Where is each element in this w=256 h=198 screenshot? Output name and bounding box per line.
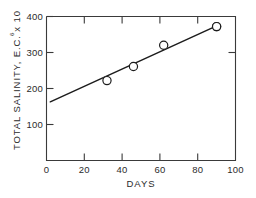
data-point-3 (160, 41, 168, 49)
x-tick-label-0: 0 (44, 164, 49, 175)
axis-frame (47, 17, 236, 161)
salinity-vs-days-scatter-plot: 400 300 200 100 0 20 40 60 80 100 DAYS T… (0, 0, 256, 198)
y-axis-tick-labels: 400 300 200 100 (27, 11, 43, 130)
y-tick-label-400: 400 (27, 11, 43, 22)
plot-border (47, 17, 236, 161)
y-axis-exponent: 6 (8, 32, 15, 36)
x-axis-tick-labels: 0 20 40 60 80 100 (44, 164, 244, 175)
y-tick-label-200: 200 (27, 83, 43, 94)
x-axis-title: DAYS (127, 178, 156, 189)
x-tick-label-80: 80 (192, 164, 203, 175)
y-tick-label-300: 300 (27, 47, 43, 58)
x-tick-label-100: 100 (227, 164, 243, 175)
data-point-2 (129, 62, 137, 70)
y-axis-ticks (47, 17, 236, 125)
y-axis-exponent-group: 6 (8, 32, 15, 36)
y-axis-title: TOTAL SALINITY, E.C. x 10 (11, 10, 22, 150)
data-point-1 (103, 76, 111, 84)
x-axis-ticks (84, 17, 197, 161)
data-point-5 (213, 23, 221, 31)
y-tick-label-100: 100 (27, 119, 43, 130)
x-tick-label-20: 20 (79, 164, 90, 175)
x-tick-label-40: 40 (117, 164, 128, 175)
y-axis-title-group: TOTAL SALINITY, E.C. x 10 (11, 10, 22, 150)
chart-figure: 400 300 200 100 0 20 40 60 80 100 DAYS T… (0, 0, 256, 198)
x-tick-label-60: 60 (154, 164, 165, 175)
